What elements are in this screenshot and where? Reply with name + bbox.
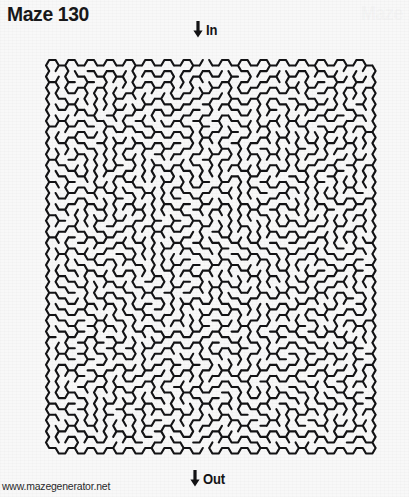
maze-grid [40, 58, 409, 482]
maze-wall-group [46, 60, 376, 454]
maze-exit-label: Out [190, 470, 227, 487]
corner-watermark: Maze [361, 2, 403, 25]
down-arrow-icon [193, 21, 203, 38]
maze-entrance-label: In [193, 21, 218, 38]
page-title: Maze 130 [7, 1, 89, 27]
down-arrow-icon [190, 470, 200, 487]
footer-source-url: www.mazegenerator.net [2, 480, 110, 492]
maze-exit-text: Out [203, 471, 225, 487]
maze-wall-path [46, 60, 376, 454]
maze-figure [40, 58, 409, 482]
maze-entrance-text: In [206, 22, 217, 38]
